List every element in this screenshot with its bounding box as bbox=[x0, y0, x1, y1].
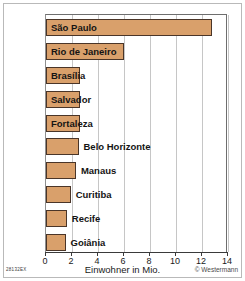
bar-label: Belo Horizonte bbox=[84, 138, 151, 155]
bar-label: Manaus bbox=[81, 162, 116, 179]
copyright-credit: © Westermann bbox=[195, 266, 238, 274]
gridline-8 bbox=[150, 15, 151, 252]
bar-label: Salvador bbox=[51, 91, 91, 108]
bar-label: Goiânia bbox=[71, 234, 106, 251]
gridline-12 bbox=[202, 15, 203, 252]
bar bbox=[46, 162, 76, 179]
gridline-10 bbox=[176, 15, 177, 252]
bar-label: Rio de Janeiro bbox=[51, 43, 116, 60]
gridline-6 bbox=[124, 15, 125, 252]
figure-code: 28132EX bbox=[6, 267, 27, 273]
bar bbox=[46, 186, 71, 203]
bar bbox=[46, 234, 66, 251]
bar-label: Curitiba bbox=[76, 186, 112, 203]
chart-figure: São PauloRio de JaneiroBrasíliaSalvadorF… bbox=[0, 0, 245, 281]
bar-label: Recife bbox=[72, 210, 101, 227]
bar-label: São Paulo bbox=[51, 19, 97, 36]
bar bbox=[46, 138, 79, 155]
bar-label: Brasília bbox=[51, 67, 85, 84]
gridline-14 bbox=[228, 15, 229, 252]
bar-label: Fortaleza bbox=[51, 115, 93, 132]
bar bbox=[46, 210, 67, 227]
plot-area: São PauloRio de JaneiroBrasíliaSalvadorF… bbox=[45, 14, 227, 252]
x-axis-line bbox=[45, 252, 227, 253]
